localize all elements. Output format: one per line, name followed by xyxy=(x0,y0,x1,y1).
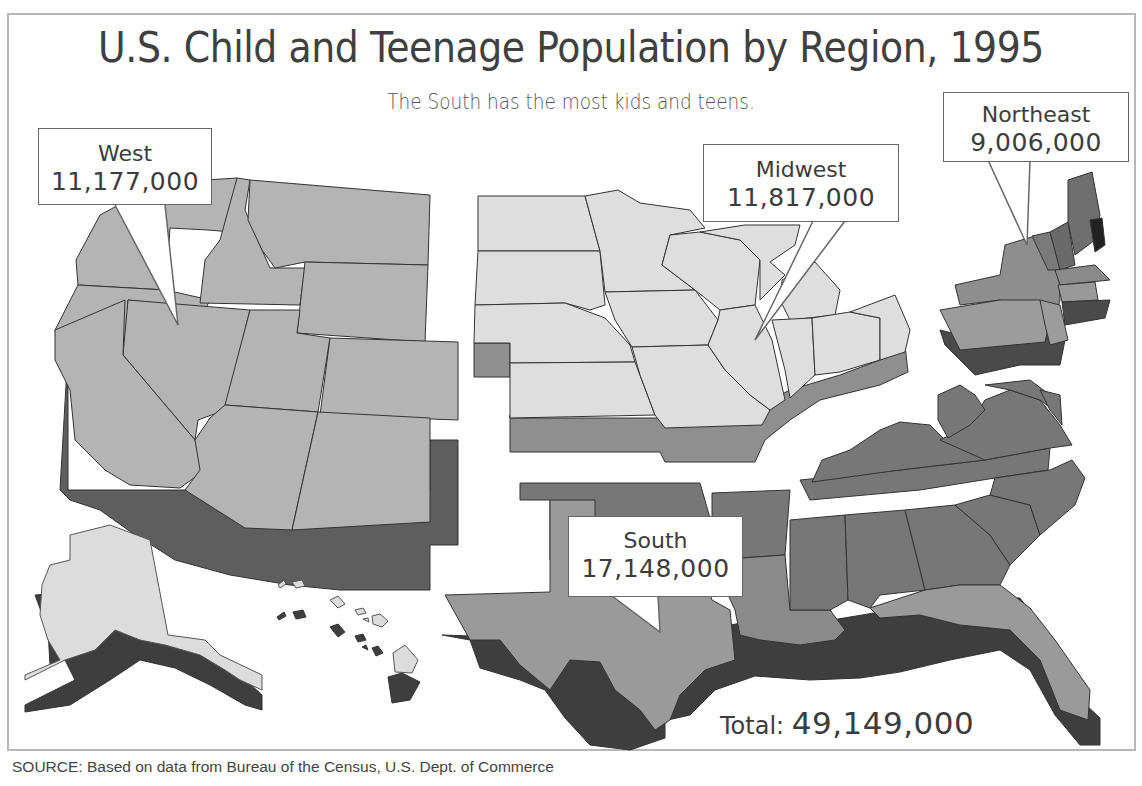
northeast-label: Northeast xyxy=(944,102,1128,128)
state-maine-coast xyxy=(1090,218,1105,252)
state-wyoming xyxy=(297,262,428,342)
source-note: SOURCE: Based on data from Bureau of the… xyxy=(12,758,554,776)
total-value: 49,149,000 xyxy=(792,705,975,741)
state-kansas xyxy=(510,362,655,418)
west-label: West xyxy=(39,141,211,167)
state-mississippi xyxy=(790,515,848,610)
west-callout: West 11,177,000 xyxy=(38,128,212,205)
west-region xyxy=(55,178,458,530)
northeast-callout: Northeast 9,006,000 xyxy=(943,92,1129,162)
state-south-dakota xyxy=(475,251,605,310)
state-colorado xyxy=(320,338,458,420)
northeast-value: 9,006,000 xyxy=(944,128,1128,158)
south-callout: South 17,148,000 xyxy=(568,516,743,597)
south-value: 17,148,000 xyxy=(569,554,742,584)
midwest-value: 11,817,000 xyxy=(704,183,898,213)
midwest-label: Midwest xyxy=(704,157,898,183)
state-montana xyxy=(248,180,430,268)
west-value: 11,177,000 xyxy=(39,167,211,197)
state-connecticut-ri xyxy=(1058,282,1098,302)
state-pennsylvania xyxy=(940,300,1050,350)
total-label: Total: 49,149,000 xyxy=(720,705,974,741)
northeast-callout-pointer xyxy=(988,160,1030,245)
midwest-callout: Midwest 11,817,000 xyxy=(703,144,899,222)
south-label: South xyxy=(569,528,742,554)
state-north-dakota xyxy=(478,196,600,251)
hawaii xyxy=(277,580,420,703)
state-long-island xyxy=(1062,300,1110,325)
total-prefix: Total: xyxy=(720,712,784,740)
